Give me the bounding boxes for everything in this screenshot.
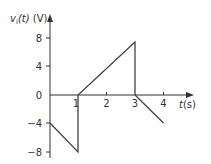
y-tick-label-0: 0: [36, 90, 42, 101]
x-tick-label-2: 2: [103, 98, 109, 109]
y-tick-label-neg4: −4: [27, 118, 42, 129]
y-axis-arrow-icon: [47, 14, 53, 22]
voltage-waveform-chart: 8 4 0 −4 −8 1 2 3 4 t(s) vi(t) (V): [0, 0, 211, 164]
y-tick-label-4: 4: [36, 61, 42, 72]
x-axis-arrow-icon: [186, 92, 194, 98]
y-ticks: [46, 38, 50, 152]
waveform-line: [50, 42, 164, 152]
y-tick-label-neg8: −8: [27, 147, 42, 158]
y-tick-label-8: 8: [36, 33, 42, 44]
x-tick-label-4: 4: [160, 98, 166, 109]
x-axis-label: t(s): [179, 99, 196, 110]
x-tick-label-3: 3: [132, 98, 138, 109]
y-axis-label: vi(t) (V): [10, 13, 48, 26]
